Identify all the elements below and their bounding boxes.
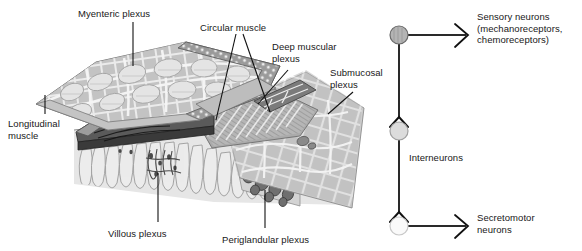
soma-interneuron (390, 122, 408, 140)
soma-secretomotor-neuron (390, 217, 408, 235)
label-periglandular-plexus: Periglandular plexus (222, 234, 309, 246)
label-deep-muscular-plexus: Deep muscular plexus (272, 41, 337, 64)
label-myenteric-plexus: Myenteric plexus (78, 8, 150, 20)
figure-root: Myenteric plexus Circular muscle Deep mu… (0, 0, 582, 251)
label-secretomotor-neurons: Secretomotor neurons (477, 212, 535, 235)
label-sensory-neurons: Sensory neurons (mechanoreceptors, chemo… (477, 11, 562, 46)
soma-sensory-neuron (390, 26, 408, 44)
label-villous-plexus: Villous plexus (108, 228, 167, 240)
label-circular-muscle: Circular muscle (200, 22, 266, 34)
label-longitudinal-muscle: Longitudinal muscle (8, 118, 60, 141)
enteric-neuron-circuit-diagram (390, 24, 468, 238)
label-submucosal-plexus: Submucosal plexus (330, 67, 383, 90)
label-interneurons: Interneurons (409, 152, 463, 164)
